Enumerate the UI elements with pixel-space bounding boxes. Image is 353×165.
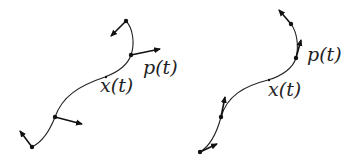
right-vector-arrow-2: [221, 97, 225, 117]
left-sample-point-1: [30, 145, 34, 149]
left-sample-point-4: [124, 19, 128, 23]
right-panel: x(t) p(t): [198, 10, 342, 154]
left-vector-arrow-3: [131, 49, 160, 55]
left-p-label: p(t): [143, 56, 178, 78]
left-vector-arrow-2: [55, 117, 82, 124]
left-vector-arrow-4: [111, 21, 126, 36]
diagram-canvas: x(t) p(t) x(t) p(t): [0, 0, 353, 165]
right-vector-arrow-4: [279, 10, 291, 24]
right-x-label: x(t): [268, 78, 301, 100]
right-sample-point-2: [219, 115, 223, 119]
left-x-label: x(t): [100, 74, 133, 96]
left-vector-arrow-1: [20, 131, 32, 147]
right-sample-point-3: [294, 56, 298, 60]
left-panel: x(t) p(t): [20, 19, 178, 149]
right-sample-point-4: [289, 22, 293, 26]
left-sample-point-2: [53, 115, 57, 119]
right-p-label: p(t): [307, 43, 342, 65]
left-sample-point-3: [129, 53, 133, 57]
right-sample-point-1: [198, 150, 202, 154]
